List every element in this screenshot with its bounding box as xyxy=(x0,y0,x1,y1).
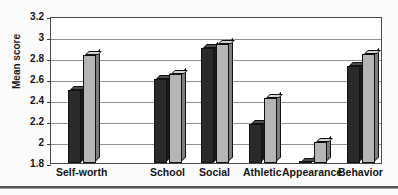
bar-side-face xyxy=(182,68,186,161)
y-axis-tick-label: 2.2 xyxy=(22,117,44,127)
y-axis-tick-label: 2.4 xyxy=(22,96,44,106)
bar-front-face xyxy=(83,55,96,163)
bar-athletic-series-1 xyxy=(249,124,262,163)
y-axis-tick-mark xyxy=(47,123,51,124)
y-axis-tick-mark xyxy=(47,102,51,103)
bar-behavior-series-2 xyxy=(362,54,375,163)
y-axis-tick-label: 3.2 xyxy=(22,12,44,22)
bar-self-worth-series-2 xyxy=(83,55,96,163)
x-axis-label-self-worth: Self-worth xyxy=(56,166,107,178)
y-axis-tick-label: 2 xyxy=(22,138,44,148)
bar-athletic-series-2 xyxy=(264,98,277,163)
bar-social-series-1 xyxy=(201,48,214,164)
x-axis-category-labels: Self-worthSchoolSocialAthleticAppearance… xyxy=(0,166,398,186)
scan-edge-line-secondary xyxy=(0,188,398,189)
bar-front-face xyxy=(347,66,360,163)
bar-front-face xyxy=(264,98,277,163)
y-axis-tick-label: 3 xyxy=(22,33,44,43)
y-axis-tick-mark xyxy=(47,144,51,145)
bar-school-series-1 xyxy=(154,79,167,163)
plot-area xyxy=(50,17,382,164)
bar-front-face xyxy=(201,48,214,164)
x-axis-label-social: Social xyxy=(199,166,230,178)
bar-appearance-series-1 xyxy=(299,162,312,164)
y-axis-tick-mark xyxy=(47,81,51,82)
bar-self-worth-series-1 xyxy=(68,90,81,164)
y-axis-tick-mark xyxy=(47,18,51,19)
x-axis-label-athletic: Athletic xyxy=(243,166,282,178)
gridline xyxy=(51,39,381,40)
bar-front-face xyxy=(362,54,375,163)
chart-figure: Mean score 3.232.82.62.42.221.8 Self-wor… xyxy=(0,0,398,195)
y-axis-tick-mark xyxy=(47,39,51,40)
bar-front-face xyxy=(169,74,182,163)
bar-front-face xyxy=(216,44,229,163)
bar-behavior-series-1 xyxy=(347,66,360,163)
bar-side-face xyxy=(229,38,233,161)
bar-school-series-2 xyxy=(169,74,182,163)
x-axis-label-behavior: Behavior xyxy=(338,166,383,178)
bar-front-face xyxy=(68,90,81,164)
y-axis-tick-label: 2.8 xyxy=(22,54,44,64)
bar-front-face xyxy=(249,124,262,163)
x-axis-label-school: School xyxy=(150,166,185,178)
bar-side-face xyxy=(277,92,281,161)
bar-front-face xyxy=(314,142,327,163)
bar-front-face xyxy=(154,79,167,163)
y-axis-tick-mark xyxy=(47,60,51,61)
y-axis-tick-label: 2.6 xyxy=(22,75,44,85)
bar-appearance-series-2 xyxy=(314,142,327,163)
bar-side-face xyxy=(96,49,100,161)
bar-social-series-2 xyxy=(216,44,229,163)
x-axis-label-appearance: Appearance xyxy=(282,166,342,178)
bar-side-face xyxy=(375,48,379,161)
